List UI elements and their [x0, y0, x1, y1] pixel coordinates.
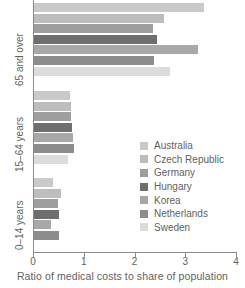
bar	[33, 67, 170, 76]
legend: AustraliaCzech RepublicGermanyHungaryKor…	[140, 139, 224, 234]
legend-item-label: Hungary	[154, 181, 192, 192]
bar	[33, 178, 53, 187]
bar	[33, 133, 73, 142]
bar	[33, 189, 61, 198]
bar	[33, 35, 157, 44]
bar-chart: 01234 65 and over15–64 years0–14 years R…	[0, 0, 245, 288]
legend-swatch-icon	[140, 183, 148, 191]
x-tick-label: 3	[182, 256, 188, 268]
legend-item[interactable]: Hungary	[140, 180, 224, 194]
bar	[33, 56, 154, 65]
legend-item[interactable]: Netherlands	[140, 207, 224, 221]
bar	[33, 112, 71, 121]
legend-item[interactable]: Czech Republic	[140, 153, 224, 167]
x-tick-label: 2	[132, 256, 138, 268]
x-axis-title: Ratio of medical costs to share of popul…	[0, 270, 245, 282]
legend-item-label: Netherlands	[154, 208, 208, 219]
legend-swatch-icon	[140, 155, 148, 163]
bar	[33, 45, 198, 54]
bar	[33, 210, 59, 219]
legend-item-label: Germany	[154, 167, 195, 178]
legend-swatch-icon	[140, 169, 148, 177]
legend-item-label: Korea	[154, 195, 181, 206]
x-tick-label: 0	[30, 256, 36, 268]
legend-item[interactable]: Korea	[140, 193, 224, 207]
x-tick-label: 4	[233, 256, 239, 268]
legend-item-label: Sweden	[154, 222, 190, 233]
bar	[33, 231, 59, 240]
legend-item[interactable]: Australia	[140, 139, 224, 153]
y-axis-line	[33, 0, 34, 253]
bar	[33, 220, 51, 229]
bar	[33, 123, 72, 132]
y-category-label: 0–14 years	[14, 201, 25, 250]
y-category-label: 65 and over	[14, 33, 25, 86]
y-category-label: 15–64 years	[14, 117, 25, 172]
bar	[33, 199, 58, 208]
bar-group	[33, 3, 236, 77]
x-tick-label: 1	[81, 256, 87, 268]
bar	[33, 3, 204, 12]
legend-swatch-icon	[140, 223, 148, 231]
bar	[33, 155, 68, 164]
legend-item-label: Czech Republic	[154, 154, 224, 165]
bar	[33, 91, 70, 100]
bar	[33, 144, 74, 153]
legend-item[interactable]: Germany	[140, 166, 224, 180]
bar	[33, 102, 71, 111]
legend-swatch-icon	[140, 196, 148, 204]
legend-item[interactable]: Sweden	[140, 221, 224, 235]
legend-swatch-icon	[140, 142, 148, 150]
legend-item-label: Australia	[154, 140, 193, 151]
bar	[33, 24, 153, 33]
legend-swatch-icon	[140, 210, 148, 218]
bar	[33, 14, 164, 23]
